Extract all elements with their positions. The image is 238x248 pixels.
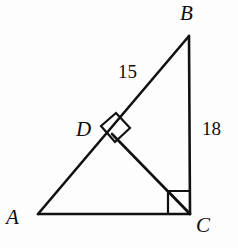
geometry-figure: A B C D 15 18 [0, 0, 238, 248]
side-length-label-ab: 15 [118, 62, 137, 81]
vertex-label-a: A [6, 207, 19, 228]
segment-bc [189, 36, 190, 214]
right-angle-diagonal-c [168, 191, 190, 214]
segment-ab [38, 36, 189, 214]
vertex-label-c: C [196, 215, 210, 236]
vertex-label-d: D [76, 119, 91, 140]
vertex-label-b: B [180, 3, 193, 24]
side-length-label-bc: 18 [202, 119, 221, 138]
